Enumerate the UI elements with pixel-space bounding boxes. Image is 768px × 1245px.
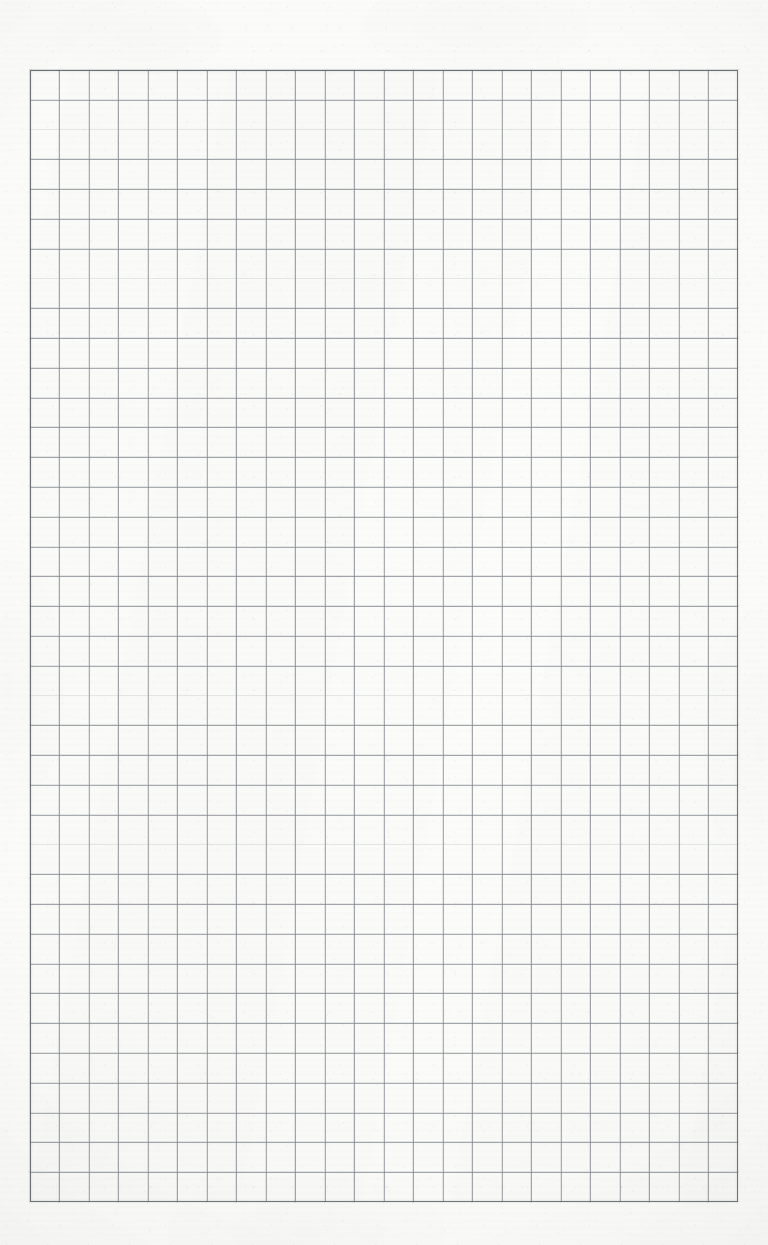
graph-paper-page: Blank graph paper sheet — [0, 0, 768, 1245]
grid-outer-border — [30, 70, 738, 1202]
graph-grid-area — [30, 70, 738, 1202]
